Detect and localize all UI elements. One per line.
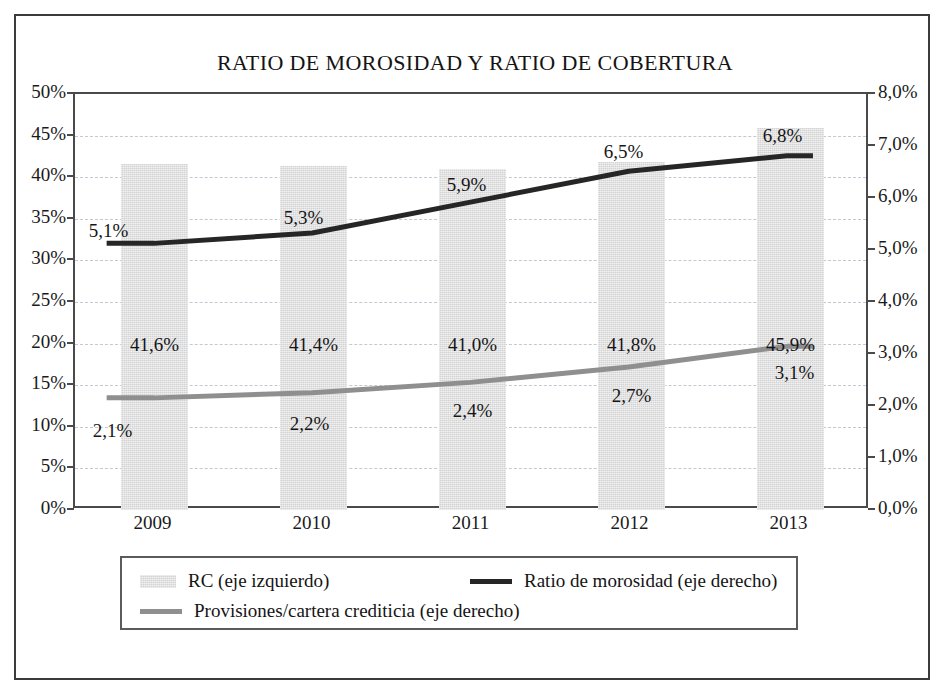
right-axis-tick-label: 2,0%	[878, 393, 918, 415]
right-axis-tick-label: 1,0%	[878, 445, 918, 467]
legend-item-label: Provisiones/cartera crediticia (eje dere…	[194, 600, 519, 622]
provisiones-data-label: 2,7%	[612, 385, 652, 407]
legend-item-label: Ratio de morosidad (eje derecho)	[524, 570, 777, 592]
right-axis-tick-label: 7,0%	[878, 133, 918, 155]
left-axis-tick-label: 45%	[31, 123, 66, 145]
right-axis-tick-mark	[868, 404, 875, 406]
morosidad-data-label: 5,1%	[89, 220, 129, 242]
right-axis-tick-mark	[868, 300, 875, 302]
line-ratio-morosidad	[107, 156, 813, 244]
legend-swatch-line-icon	[140, 609, 182, 614]
left-axis-tick-label: 0%	[41, 497, 66, 519]
legend-swatch-line-icon	[470, 579, 512, 584]
right-axis-tick-mark	[868, 456, 875, 458]
provisiones-data-label: 2,1%	[93, 420, 133, 442]
bar-data-label: 41,0%	[448, 334, 497, 356]
left-axis-tick-label: 15%	[31, 372, 66, 394]
provisiones-data-label: 2,4%	[453, 400, 493, 422]
chart-legend: RC (eje izquierdo)Ratio de morosidad (ej…	[120, 556, 798, 630]
x-axis-tick-labels: 20092010201120122013	[73, 512, 868, 544]
bar-data-label: 45,9%	[766, 334, 815, 356]
legend-item[interactable]: RC (eje izquierdo)	[140, 568, 329, 594]
right-axis-tick-mark	[868, 508, 875, 510]
morosidad-data-label: 6,8%	[763, 125, 803, 147]
legend-item[interactable]: Provisiones/cartera crediticia (eje dere…	[140, 598, 519, 624]
left-axis-tick-mark	[67, 508, 74, 510]
right-axis-tick-label: 5,0%	[878, 237, 918, 259]
right-axis-tick-mark	[868, 248, 875, 250]
right-axis-tick-label: 0,0%	[878, 497, 918, 519]
x-axis-tick-label: 2012	[611, 512, 649, 534]
bar-data-label: 41,8%	[607, 334, 656, 356]
left-axis-tick-label: 20%	[31, 331, 66, 353]
legend-item-label: RC (eje izquierdo)	[188, 570, 329, 592]
right-axis-tick-label: 3,0%	[878, 341, 918, 363]
right-axis-tick-label: 6,0%	[878, 185, 918, 207]
left-axis-tick-label: 35%	[31, 206, 66, 228]
left-axis-tick-labels: 0%5%10%15%20%25%30%35%40%45%50%	[10, 92, 66, 508]
right-axis-tick-mark	[868, 144, 875, 146]
right-axis-tick-mark	[868, 352, 875, 354]
left-axis-tick-label: 10%	[31, 414, 66, 436]
right-axis-tick-labels: 0,0%1,0%2,0%3,0%4,0%5,0%6,0%7,0%8,0%	[878, 92, 948, 508]
legend-item[interactable]: Ratio de morosidad (eje derecho)	[470, 568, 777, 594]
right-axis-tick-mark	[868, 196, 875, 198]
right-axis-tick-mark	[868, 92, 875, 94]
legend-swatch-bar-icon	[140, 575, 176, 588]
x-axis-tick-label: 2009	[134, 512, 172, 534]
x-axis-tick-label: 2010	[293, 512, 331, 534]
plot-area: 41,6%41,4%41,0%41,8%45,9%5,1%5,3%5,9%6,5…	[73, 92, 868, 508]
morosidad-data-label: 5,3%	[284, 207, 324, 229]
left-axis-tick-label: 5%	[41, 455, 66, 477]
chart-figure: RATIO DE MOROSIDAD Y RATIO DE COBERTURA …	[0, 0, 950, 698]
bar-data-label: 41,6%	[130, 334, 179, 356]
left-axis-tick-label: 40%	[31, 164, 66, 186]
chart-title: RATIO DE MOROSIDAD Y RATIO DE COBERTURA	[0, 50, 950, 76]
line-series-group	[75, 94, 866, 506]
x-axis-tick-label: 2011	[452, 512, 489, 534]
morosidad-data-label: 5,9%	[447, 174, 487, 196]
left-axis-tick-label: 25%	[31, 289, 66, 311]
provisiones-data-label: 3,1%	[775, 362, 815, 384]
right-axis-tick-marks	[868, 92, 876, 508]
left-axis-tick-label: 50%	[31, 81, 66, 103]
bar-data-label: 41,4%	[289, 334, 338, 356]
morosidad-data-label: 6,5%	[604, 141, 644, 163]
provisiones-data-label: 2,2%	[290, 413, 330, 435]
x-axis-tick-label: 2013	[770, 512, 808, 534]
left-axis-tick-label: 30%	[31, 247, 66, 269]
right-axis-tick-label: 8,0%	[878, 81, 918, 103]
right-axis-tick-label: 4,0%	[878, 289, 918, 311]
